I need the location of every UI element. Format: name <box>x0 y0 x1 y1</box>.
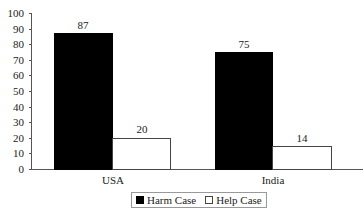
y-tick <box>29 75 32 76</box>
y-tick <box>29 13 32 14</box>
y-tick-label: 10 <box>0 148 24 159</box>
value-label-usa-harm: 87 <box>63 20 103 31</box>
legend-label-help: Help Case <box>216 194 262 206</box>
y-tick-label: 0 <box>0 164 24 175</box>
y-tick <box>29 169 32 170</box>
y-tick-label: 20 <box>0 133 24 144</box>
y-tick-label: 60 <box>0 70 24 81</box>
category-label-india: India <box>243 174 303 186</box>
y-tick <box>29 29 32 30</box>
legend-swatch-help <box>205 196 213 204</box>
y-tick <box>29 44 32 45</box>
y-tick-label: 40 <box>0 102 24 113</box>
bar-india-harm <box>215 52 273 170</box>
y-tick-label: 80 <box>0 39 24 50</box>
y-tick <box>29 60 32 61</box>
value-label-india-help: 14 <box>282 133 322 144</box>
bar-usa-harm <box>54 33 113 170</box>
y-tick-label: 90 <box>0 24 24 35</box>
y-tick-label: 50 <box>0 86 24 97</box>
y-tick-label: 30 <box>0 117 24 128</box>
legend-swatch-harm <box>136 196 144 204</box>
y-tick <box>29 153 32 154</box>
category-label-usa: USA <box>83 174 143 186</box>
y-tick-label: 70 <box>0 55 24 66</box>
legend-label-harm: Harm Case <box>147 194 196 206</box>
y-tick-label: 100 <box>0 8 24 19</box>
bar-usa-help <box>112 138 171 170</box>
bar-india-help <box>272 146 332 170</box>
y-tick <box>29 91 32 92</box>
value-label-usa-help: 20 <box>122 124 162 135</box>
y-tick <box>29 122 32 123</box>
legend: Harm Case Help Case <box>131 192 267 208</box>
value-label-india-harm: 75 <box>224 39 264 50</box>
y-tick <box>29 107 32 108</box>
y-tick <box>29 138 32 139</box>
